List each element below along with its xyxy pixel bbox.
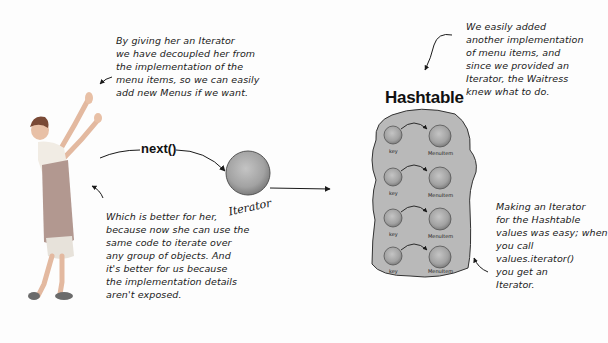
curl-arrow-icon: [92, 186, 103, 198]
note-easily-added: We easily added another implementation o…: [466, 20, 584, 98]
next-arrow-line: [100, 150, 140, 158]
note-hashtable-iterator: Making an Iterator for the Hashtable val…: [496, 200, 608, 291]
svg-text:MenuItem: MenuItem: [428, 150, 453, 156]
svg-text:key: key: [389, 148, 398, 155]
next-method-label: next(): [141, 141, 176, 156]
svg-text:MenuItem: MenuItem: [428, 268, 453, 274]
svg-text:key: key: [389, 268, 398, 275]
svg-text:MenuItem: MenuItem: [428, 233, 453, 239]
iterator-ball: [226, 151, 270, 195]
svg-text:MenuItem: MenuItem: [428, 192, 453, 198]
svg-text:key: key: [389, 190, 398, 197]
hashtable-title: Hashtable: [385, 88, 464, 108]
hook-arrow-icon: [425, 34, 452, 70]
next-arrow-head: [176, 150, 225, 171]
note-better-for-her: Which is better for her, because now she…: [106, 210, 249, 301]
note-arrow-icon: [474, 258, 488, 272]
note-decoupled: By giving her an Iterator we have decoup…: [116, 34, 259, 99]
waitress-figure: [28, 92, 102, 300]
note-arrow-icon: [100, 77, 112, 84]
iterator-to-hashtable-arrow: [270, 188, 330, 189]
svg-text:key: key: [389, 231, 398, 238]
